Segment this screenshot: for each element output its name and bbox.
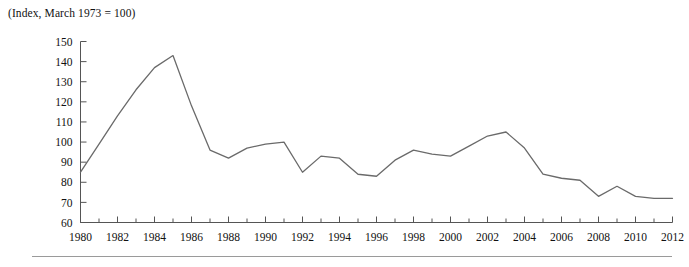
x-tick-label: 1994 (328, 231, 351, 243)
y-tick-label: 130 (55, 76, 73, 88)
x-tick-label: 1980 (69, 231, 92, 243)
x-tick-label: 1986 (180, 231, 203, 243)
y-tick-label: 110 (56, 116, 73, 128)
y-tick-label: 70 (61, 197, 73, 209)
y-tick-label: 80 (61, 176, 73, 188)
y-tick-label: 120 (55, 96, 73, 108)
y-tick-label: 140 (55, 56, 73, 68)
x-tick-label: 2012 (661, 231, 684, 243)
y-axis: 60708090100110120130140150 (55, 36, 86, 229)
y-tick-label: 150 (55, 36, 73, 48)
x-tick-label: 2010 (624, 231, 647, 243)
y-tick-label: 90 (61, 156, 73, 168)
y-tick-label: 100 (55, 136, 73, 148)
x-tick-label: 1988 (217, 231, 240, 243)
x-tick-label: 1992 (291, 231, 314, 243)
x-tick-label: 2000 (439, 231, 462, 243)
chart-figure: (Index, March 1973 = 100) 60708090100110… (0, 0, 689, 267)
x-tick-label: 1996 (365, 231, 388, 243)
series-line-effective-exchange-rate-index (81, 56, 673, 199)
x-tick-label: 2006 (550, 231, 573, 243)
y-tick-label: 60 (61, 217, 73, 229)
x-tick-label: 1990 (254, 231, 277, 243)
footer-divider (32, 256, 672, 257)
line-chart-plot: 60708090100110120130140150 1980198219841… (0, 0, 689, 267)
x-tick-label: 1984 (143, 231, 166, 243)
x-tick-label: 2008 (587, 231, 610, 243)
x-tick-label: 2002 (476, 231, 499, 243)
x-axis: 1980198219841986198819901992199419961998… (69, 217, 684, 243)
x-tick-label: 1982 (106, 231, 129, 243)
series-group (81, 56, 673, 199)
x-tick-label: 2004 (513, 231, 536, 243)
x-tick-label: 1998 (402, 231, 425, 243)
